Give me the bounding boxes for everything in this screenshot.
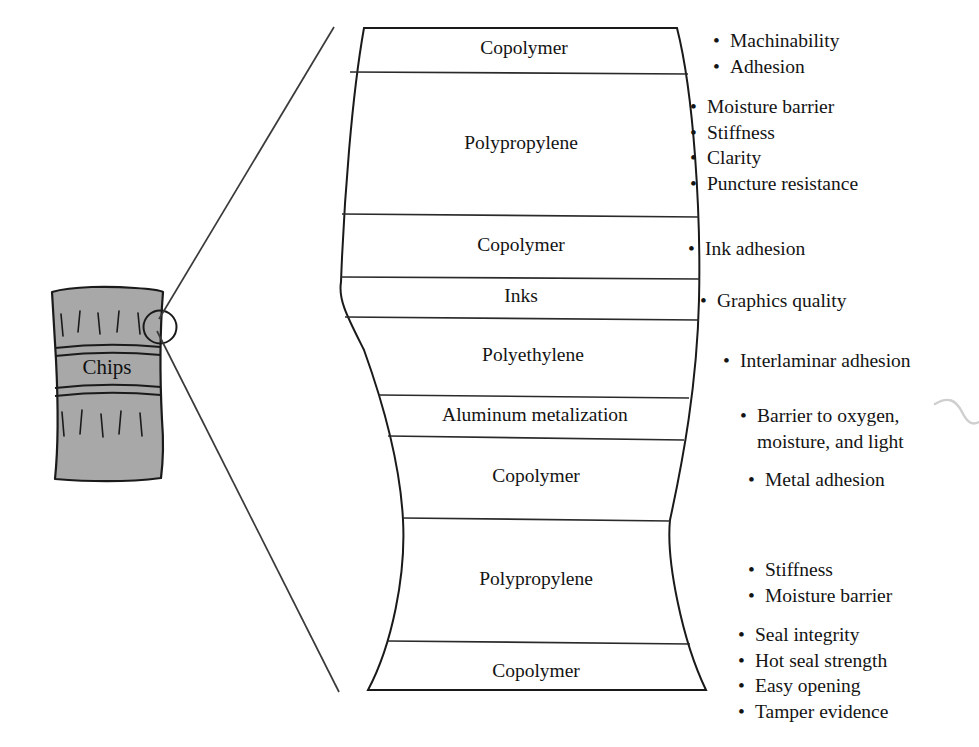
layer-label-2: Copolymer xyxy=(477,234,565,255)
annotation-group-3: Graphics quality xyxy=(700,288,846,314)
annotation-item: Stiffness xyxy=(748,557,892,583)
callout-leader-line-bottom xyxy=(157,331,339,692)
annotation-item: Stiffness xyxy=(690,120,858,146)
annotation-item: Hot seal strength xyxy=(738,648,888,674)
layer-label-4: Polyethylene xyxy=(482,344,584,365)
annotation-group-1: Moisture barrier Stiffness Clarity Punct… xyxy=(690,94,858,196)
annotation-item: Graphics quality xyxy=(700,288,846,314)
annotation-group-6: Metal adhesion xyxy=(748,467,885,493)
annotation-item: Barrier to oxygen, xyxy=(740,403,904,429)
layer-label-1: Polypropylene xyxy=(464,132,578,153)
callout-leader-line-top xyxy=(159,27,334,319)
annotation-group-0: Machinability Adhesion xyxy=(713,28,839,79)
wavy-squiggle-mark-icon xyxy=(935,400,979,424)
annotation-item: Metal adhesion xyxy=(748,467,885,493)
annotation-item: Moisture barrier xyxy=(690,94,858,120)
multilayer-film-diagram: Chips Copolymer Polypropylene Copolymer xyxy=(0,0,979,747)
annotation-item: Seal integrity xyxy=(738,622,888,648)
annotation-item: Adhesion xyxy=(713,54,839,80)
chips-bag-graphic: Chips xyxy=(52,287,163,481)
annotation-item: moisture, and light xyxy=(740,429,904,455)
layer-label-3: Inks xyxy=(504,285,538,306)
annotation-item: Puncture resistance xyxy=(690,171,858,197)
annotation-item: Interlaminar adhesion xyxy=(723,348,911,374)
chips-bag-label: Chips xyxy=(82,355,131,379)
layer-label-6: Copolymer xyxy=(492,465,580,486)
layer-label-8: Copolymer xyxy=(492,660,580,681)
annotation-group-7: Stiffness Moisture barrier xyxy=(748,557,892,608)
layer-label-0: Copolymer xyxy=(480,37,568,58)
layer-label-7: Polypropylene xyxy=(479,568,593,589)
annotation-group-8: Seal integrity Hot seal strength Easy op… xyxy=(738,622,888,724)
annotation-item: Tamper evidence xyxy=(738,699,888,725)
annotation-item: Ink adhesion xyxy=(688,236,805,262)
layer-label-5: Aluminum metalization xyxy=(442,404,628,425)
callout-group xyxy=(144,27,340,692)
annotation-item: Clarity xyxy=(690,145,858,171)
annotation-item: Moisture barrier xyxy=(748,583,892,609)
annotation-group-4: Interlaminar adhesion xyxy=(723,348,911,374)
annotation-group-5: Barrier to oxygen, moisture, and light xyxy=(740,403,904,454)
film-stack: Copolymer Polypropylene Copolymer Inks P… xyxy=(340,28,706,690)
annotation-item: Easy opening xyxy=(738,673,888,699)
annotation-item: Machinability xyxy=(713,28,839,54)
annotation-group-2: Ink adhesion xyxy=(688,236,805,262)
